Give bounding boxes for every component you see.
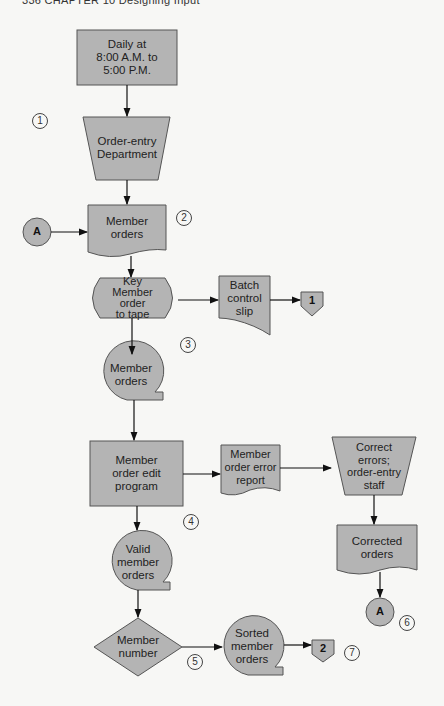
page-connector-2-label: 2 <box>315 642 331 654</box>
key-to-tape-label: Key Member order to tape <box>90 276 175 320</box>
step-marker-4: 4 <box>183 514 199 530</box>
error-report-label: Member order error report <box>221 447 280 487</box>
member-orders-doc-label: Member orders <box>88 210 166 246</box>
step-marker-6: 6 <box>399 615 415 631</box>
sorted-orders-label: Sorted member orders <box>222 624 282 668</box>
step-marker-3: 3 <box>180 337 196 353</box>
order-entry-dept-label: Order-entry Department <box>83 128 171 168</box>
correct-errors-label: Correct errors; order-entry staff <box>332 437 416 495</box>
connector-a-in-label: A <box>29 225 45 237</box>
step-marker-7: 7 <box>344 645 360 661</box>
corrected-orders-label: Corrected orders <box>337 530 417 566</box>
member-number-label: Member number <box>100 630 176 664</box>
schedule-label: Daily at 8:00 A.M. to 5:00 P.M. <box>77 30 177 85</box>
valid-orders-label: Valid member orders <box>108 540 168 584</box>
member-orders-tape-label: Member orders <box>101 355 161 395</box>
step-marker-2: 2 <box>176 210 192 226</box>
step-marker-1: 1 <box>32 113 48 129</box>
batch-control-slip-label: Batch control slip <box>219 278 270 318</box>
edit-program-label: Member order edit program <box>90 441 183 506</box>
connector-a-out-label: A <box>372 605 388 617</box>
step-marker-5: 5 <box>187 654 203 670</box>
flowchart-canvas <box>0 0 444 706</box>
page-connector-1-label: 1 <box>304 294 320 306</box>
